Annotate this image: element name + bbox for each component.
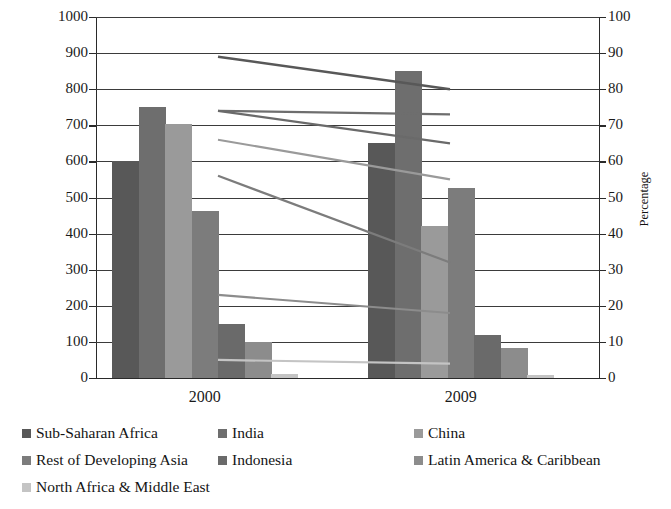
y-axis-right-tick-label: 80 [608,81,648,96]
y-axis-right-tick-label: 40 [608,226,648,241]
y-axis-right-tick-label: 20 [608,298,648,313]
legend-swatch-icon [22,429,31,438]
trend-line [218,57,450,89]
y-axis-left-tick-label: 100 [40,334,88,349]
trend-line [218,295,450,313]
y-axis-left-tick-label: 600 [40,153,88,168]
axis-tick [89,342,96,343]
legend-swatch-icon [218,429,227,438]
legend-swatch-icon [22,483,31,492]
y-axis-left-tick-label: 500 [40,190,88,205]
legend-label: India [232,424,264,442]
y-axis-right-tick-label: 30 [608,262,648,277]
y-axis-left-tick-label: 1000 [40,9,88,24]
y-axis-right-tick-label: 100 [608,9,648,24]
axis-tick [599,89,606,90]
axis-tick [89,234,96,235]
axis-tick [599,53,606,54]
legend-item[interactable]: Sub-Saharan Africa [22,424,218,442]
axis-tick [599,17,606,18]
y-axis-left-tick-label: 800 [40,81,88,96]
y-axis-left-tick-label: 900 [40,45,88,60]
x-axis-tick-label: 2009 [401,388,521,406]
axis-tick [599,234,606,235]
axis-tick [89,125,96,126]
y-axis-left-tick-label: 200 [40,298,88,313]
axis-tick [89,306,96,307]
axis-tick [89,270,96,271]
axis-tick [599,198,606,199]
chart-legend: Sub-Saharan AfricaIndiaChinaRest of Deve… [22,424,662,496]
bar-chart: Population in Millions Dependent on Biom… [0,0,671,509]
legend-label: Rest of Developing Asia [36,451,188,469]
trend-line [218,111,450,115]
legend-item[interactable]: Indonesia [218,451,414,469]
legend-item[interactable]: Rest of Developing Asia [22,451,218,469]
legend-label: China [428,424,465,442]
trend-line [218,360,450,364]
axis-tick [89,198,96,199]
legend-swatch-icon [22,456,31,465]
y-axis-left-tick-label: 700 [40,117,88,132]
axis-tick [599,306,606,307]
axis-tick [599,378,606,379]
axis-tick [89,17,96,18]
y-axis-right-tick-label: 0 [608,370,648,385]
y-axis-left-tick-label: 300 [40,262,88,277]
legend-swatch-icon [414,429,423,438]
axis-tick [89,161,96,162]
legend-swatch-icon [218,456,227,465]
y-axis-left-tick-label: 400 [40,226,88,241]
legend-label: Indonesia [232,451,292,469]
axis-tick [599,342,606,343]
axis-tick [89,89,96,90]
y-axis-right-tick-label: 50 [608,190,648,205]
legend-label: Latin America & Caribbean [428,451,601,469]
axis-tick [599,270,606,271]
y-axis-right-tick-label: 10 [608,334,648,349]
axis-tick [599,125,606,126]
trend-lines-layer [96,17,600,378]
axis-tick [89,378,96,379]
legend-label: North Africa & Middle East [36,478,210,496]
trend-line [218,140,450,180]
legend-item[interactable]: China [414,424,662,442]
y-axis-right-tick-label: 70 [608,117,648,132]
y-axis-right-tick-label: 90 [608,45,648,60]
legend-item[interactable]: North Africa & Middle East [22,478,218,496]
legend-item[interactable]: India [218,424,414,442]
axis-tick [89,53,96,54]
axis-tick [599,161,606,162]
trend-line [218,176,450,263]
y-axis-right-tick-label: 60 [608,153,648,168]
legend-label: Sub-Saharan Africa [36,424,158,442]
legend-swatch-icon [414,456,423,465]
x-axis-tick-label: 2000 [145,388,265,406]
trend-line [218,111,450,143]
y-axis-left-tick-label: 0 [40,370,88,385]
y-axis-left-title: Population in Millions Dependent on Biom… [2,0,28,32]
legend-item[interactable]: Latin America & Caribbean [414,451,662,469]
